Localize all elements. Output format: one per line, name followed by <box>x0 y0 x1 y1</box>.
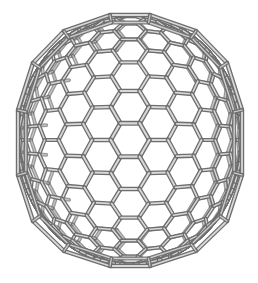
caption-text <box>2 274 256 283</box>
fullerene-wireframe <box>0 0 258 283</box>
fullerene-image <box>0 0 258 283</box>
